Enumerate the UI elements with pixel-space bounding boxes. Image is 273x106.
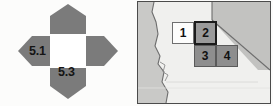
map-grid-cell-3[interactable]: 3: [194, 45, 216, 67]
map-grid-cell-4[interactable]: 4: [216, 45, 238, 67]
compass-arm-north[interactable]: [50, 4, 86, 34]
compass-center-square[interactable]: [50, 34, 86, 68]
map-cell-label-3: 3: [202, 50, 209, 62]
compass-diagram: 5.1 5.3: [16, 4, 120, 102]
map-cell-label-4: 4: [224, 50, 231, 62]
map-cell-label-1: 1: [180, 27, 187, 39]
compass-label-south: 5.3: [58, 66, 75, 79]
compass-label-west: 5.1: [29, 45, 46, 58]
compass-arm-east[interactable]: [86, 36, 118, 66]
map-inset-panel: 1 2 3 4: [137, 1, 271, 104]
map-cell-label-2: 2: [202, 27, 209, 39]
quadrant-compass-panel: 5.1 5.3: [0, 0, 137, 106]
map-grid-cell-2[interactable]: 2: [194, 21, 217, 45]
figure-container: 5.1 5.3 1 2: [0, 0, 273, 106]
map-grid-cell-1[interactable]: 1: [172, 22, 194, 44]
